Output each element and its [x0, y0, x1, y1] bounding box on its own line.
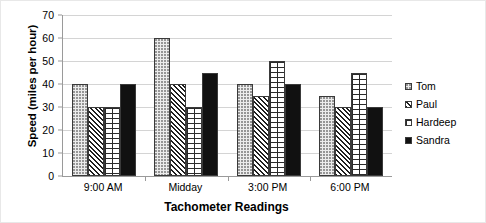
bar-sandra-6-00-pm[interactable] [367, 107, 383, 176]
x-axis-tick-labels: 9:00 AMMidday3:00 PM6:00 PM [62, 181, 391, 193]
bar-paul-9-00-am[interactable] [88, 107, 104, 176]
bar-paul-midday[interactable] [170, 84, 186, 176]
legend-label: Tom [416, 81, 436, 92]
y-tick-label: 0 [48, 170, 54, 182]
bar-sandra-3-00-pm[interactable] [285, 84, 301, 176]
bar-sandra-midday[interactable] [202, 73, 218, 177]
bar-hardeep-6-00-pm[interactable] [351, 73, 367, 177]
bar-hardeep-midday[interactable] [186, 107, 202, 176]
chart-legend: TomPaulHardeepSandra [405, 81, 456, 146]
y-tick-label: 70 [42, 9, 54, 21]
y-tick-label: 50 [42, 55, 54, 67]
legend-item-hardeep[interactable]: Hardeep [405, 117, 456, 128]
bar-tom-midday[interactable] [154, 38, 170, 176]
bar-hardeep-9-00-am[interactable] [104, 107, 120, 176]
bar-sandra-9-00-am[interactable] [120, 84, 136, 176]
bar-group [310, 15, 392, 176]
x-tick-label: Midday [144, 181, 226, 193]
legend-swatch-icon [405, 119, 412, 126]
bar-paul-6-00-pm[interactable] [335, 107, 351, 176]
y-tick-label: 40 [42, 78, 54, 90]
legend-item-paul[interactable]: Paul [405, 99, 456, 110]
bar-tom-6-00-pm[interactable] [319, 96, 335, 177]
x-tick-label: 9:00 AM [62, 181, 144, 193]
legend-label: Hardeep [416, 117, 456, 128]
y-axis-tick-labels: 010203040506070 [29, 15, 58, 176]
y-tick-label: 30 [42, 101, 54, 113]
bar-hardeep-3-00-pm[interactable] [269, 61, 285, 176]
bar-group [228, 15, 310, 176]
x-tick-label: 3:00 PM [227, 181, 309, 193]
legend-swatch-icon [405, 83, 412, 90]
y-tick-label: 20 [42, 124, 54, 136]
bar-chart-figure: Speed (miles per hour) 010203040506070 9… [0, 0, 486, 223]
legend-label: Paul [416, 99, 437, 110]
legend-item-tom[interactable]: Tom [405, 81, 456, 92]
plot-area [62, 15, 392, 177]
x-tick-label: 6:00 PM [309, 181, 391, 193]
legend-label: Sandra [416, 135, 450, 146]
legend-swatch-icon [405, 101, 412, 108]
y-tick-label: 10 [42, 147, 54, 159]
x-axis-title: Tachometer Readings [62, 200, 391, 214]
bar-tom-3-00-pm[interactable] [237, 84, 253, 176]
bar-tom-9-00-am[interactable] [72, 84, 88, 176]
bar-group [63, 15, 145, 176]
bar-group [145, 15, 227, 176]
bar-paul-3-00-pm[interactable] [253, 96, 269, 177]
y-tick-label: 60 [42, 32, 54, 44]
legend-swatch-icon [405, 137, 412, 144]
bar-groups [63, 15, 392, 176]
legend-item-sandra[interactable]: Sandra [405, 135, 456, 146]
